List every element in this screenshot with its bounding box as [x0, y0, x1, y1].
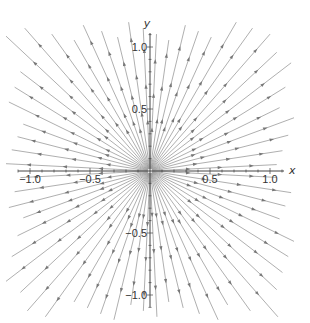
arrow-icon: [177, 289, 181, 294]
arrow-icon: [65, 219, 71, 224]
arrow-icon: [188, 256, 193, 261]
arrow-icon: [264, 241, 270, 246]
arrow-icon: [187, 56, 192, 61]
arrow-icon: [202, 195, 207, 200]
arrow-icon: [128, 251, 132, 256]
arrow-icon: [152, 93, 155, 98]
arrow-icon: [99, 187, 104, 192]
arrow-icon: [224, 131, 229, 136]
arrow-icon: [137, 213, 141, 218]
arrow-icon: [192, 147, 197, 152]
arrow-icon: [105, 76, 110, 81]
arrow-icon: [174, 91, 179, 96]
arrow-icon: [218, 166, 223, 169]
x-tick-label: 1.0: [262, 173, 277, 185]
arrow-icon: [107, 51, 112, 56]
arrow-icon: [235, 146, 240, 150]
arrow-icon: [130, 95, 134, 100]
arrow-icon: [186, 84, 191, 89]
arrow-icon: [249, 164, 254, 167]
arrow-icon: [122, 61, 126, 66]
arrow-icon: [31, 139, 36, 143]
x-tick-label: 0.5: [202, 173, 217, 185]
streamline: [151, 173, 250, 311]
arrow-icon: [64, 147, 69, 151]
arrow-icon: [267, 95, 273, 100]
arrow-icon: [87, 63, 92, 69]
arrow-icon: [161, 221, 165, 226]
arrow-icon: [274, 231, 279, 236]
arrow-icon: [187, 283, 192, 288]
arrow-icon: [229, 219, 235, 224]
arrow-icon: [256, 115, 261, 120]
arrow-icon: [69, 131, 74, 136]
arrow-icon: [64, 191, 69, 195]
arrow-icon: [104, 294, 109, 299]
arrow-icon: [249, 174, 254, 177]
arrow-icon: [116, 259, 121, 264]
arrow-icon: [220, 43, 225, 49]
arrow-icon: [131, 121, 136, 126]
y-tick-label: 0.5: [132, 103, 147, 115]
arrow-icon: [152, 249, 155, 254]
streamline: [6, 36, 148, 169]
arrow-icon: [186, 171, 191, 174]
arrow-icon: [106, 240, 111, 246]
arrow-icon: [144, 257, 147, 262]
arrow-icon: [62, 165, 67, 168]
arrow-icon: [106, 96, 111, 102]
arrow-icon: [227, 139, 232, 144]
arrow-icon: [238, 213, 243, 218]
arrow-icon: [194, 198, 200, 203]
arrow-icon: [125, 129, 130, 135]
y-tick-label: −0.5: [125, 227, 147, 239]
arrow-icon: [98, 167, 103, 170]
arrow-icon: [178, 46, 182, 51]
arrow-icon: [111, 249, 116, 254]
arrow-icon: [191, 153, 196, 158]
arrow-icon: [199, 80, 204, 86]
arrow-icon: [31, 241, 37, 246]
arrow-icon: [269, 137, 274, 141]
arrow-icon: [100, 198, 106, 203]
arrow-icon: [199, 136, 205, 141]
arrow-icon: [160, 119, 164, 124]
stream-plot: −1.0−0.50.51.0−1.0−0.50.51.0 x y: [0, 0, 310, 323]
arrow-icon: [89, 40, 94, 45]
axes: −1.0−0.50.51.0−1.0−0.50.51.0 x y: [18, 17, 296, 307]
arrow-icon: [200, 155, 205, 159]
y-tick-label: −1.0: [125, 289, 147, 301]
arrow-icon: [263, 126, 268, 131]
arrow-icon: [186, 167, 191, 170]
arrow-icon: [62, 116, 68, 121]
arrow-icon: [197, 253, 202, 259]
arrow-icon: [171, 219, 176, 224]
arrow-icon: [202, 50, 207, 55]
arrow-icon: [228, 190, 233, 194]
arrow-icon: [169, 82, 173, 87]
arrow-icon: [233, 116, 239, 121]
arrow-icon: [150, 127, 153, 132]
arrow-icon: [219, 195, 224, 200]
arrow-icon: [218, 173, 223, 176]
arrow-icon: [105, 148, 110, 153]
arrow-icon: [119, 86, 124, 91]
arrow-icon: [29, 200, 34, 204]
arrow-icon: [146, 120, 149, 125]
arrow-icon: [104, 153, 109, 158]
arrow-icon: [96, 136, 102, 141]
arrow-icon: [107, 188, 112, 193]
arrow-icon: [72, 141, 77, 146]
arrow-icon: [194, 181, 199, 185]
arrow-icon: [138, 128, 142, 133]
arrow-icon: [144, 84, 147, 89]
arrow-icon: [154, 286, 157, 291]
arrow-icon: [41, 129, 46, 134]
arrow-icon: [126, 215, 131, 220]
arrow-icon: [154, 59, 157, 64]
y-tick-label: 1.0: [132, 41, 147, 53]
arrow-icon: [119, 288, 123, 293]
x-axis-label: x: [288, 164, 296, 177]
arrow-icon: [251, 207, 256, 212]
arrow-icon: [205, 293, 210, 298]
